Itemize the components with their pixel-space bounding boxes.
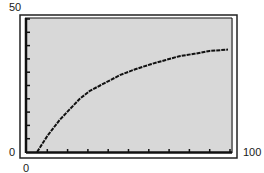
plot-area <box>25 18 233 153</box>
chart-plot <box>0 0 264 173</box>
